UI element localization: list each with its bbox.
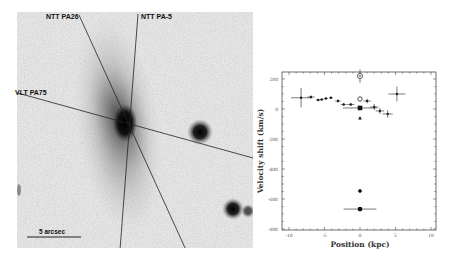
data-point-plus xyxy=(330,97,332,99)
chart-points xyxy=(291,69,405,211)
y-tick-label: -600 xyxy=(268,197,278,202)
data-point-plus xyxy=(396,93,398,95)
y-tick-label: -400 xyxy=(268,167,278,172)
y-tick-label: 200 xyxy=(269,77,278,82)
y-tick-label: 0 xyxy=(275,107,278,112)
data-point-filled-circle xyxy=(358,207,363,212)
data-point-plus xyxy=(300,97,302,99)
data-point-triangle xyxy=(358,116,362,120)
chart-axes: -10-505102000-200-400-600-800 xyxy=(268,72,436,238)
data-point-plus xyxy=(379,110,381,112)
data-point-plus xyxy=(320,98,322,100)
y-tick-label: -200 xyxy=(268,137,278,142)
x-tick-label: -10 xyxy=(285,233,292,238)
data-point-plus xyxy=(317,99,319,101)
data-point-plus xyxy=(366,100,368,102)
velocity-chart: -10-505102000-200-400-600-800 Position (… xyxy=(0,0,453,261)
data-point-filled-square xyxy=(358,106,363,111)
x-tick-label: 10 xyxy=(428,233,434,238)
data-point-plus xyxy=(350,103,352,105)
x-tick-label: -5 xyxy=(322,233,327,238)
x-tick-label: 0 xyxy=(359,233,362,238)
data-point-open-circle xyxy=(358,97,362,101)
y-tick-label: -800 xyxy=(268,227,278,232)
y-axis-label: Velocity shift (km/s) xyxy=(256,109,265,195)
data-point-plus xyxy=(386,113,388,115)
data-point-plus xyxy=(337,100,339,102)
data-point-plus xyxy=(310,96,312,98)
data-point-plus xyxy=(342,103,344,105)
x-tick-label: 5 xyxy=(394,233,397,238)
x-axis-label: Position (kpc) xyxy=(331,240,390,249)
plot-frame xyxy=(282,72,436,230)
data-point-diamond xyxy=(358,189,363,194)
data-point-plus xyxy=(325,97,327,99)
